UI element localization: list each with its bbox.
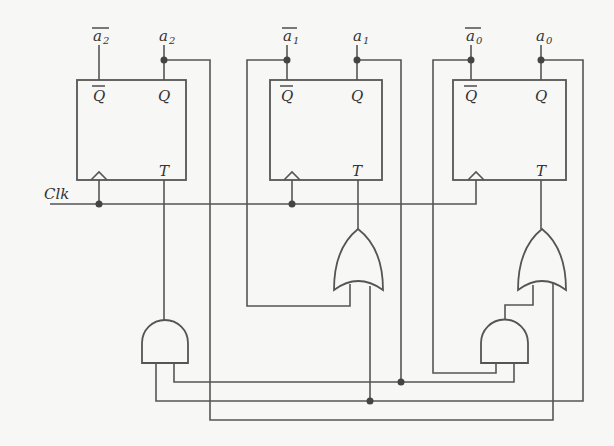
- and-gate-a0: [481, 320, 528, 364]
- pin-qbar: Q: [281, 87, 293, 105]
- output-label-a0: a: [536, 27, 545, 45]
- and-gate-a2: [142, 320, 188, 363]
- junction-dot: [367, 398, 374, 405]
- svg-text:2: 2: [168, 35, 175, 46]
- output-label-a0-bar: a: [466, 27, 475, 45]
- or-gate-a1: [334, 229, 383, 290]
- clock-label: Clk: [44, 185, 69, 203]
- svg-text:2: 2: [102, 35, 109, 46]
- junction-dot: [398, 379, 405, 386]
- junction-dot: [161, 57, 168, 64]
- junction-dot: [289, 201, 296, 208]
- junction-dot: [284, 57, 291, 64]
- output-label-a2: a: [159, 27, 168, 45]
- svg-text:1: 1: [363, 35, 369, 46]
- pin-q: Q: [158, 87, 170, 105]
- or-gate-a0: [518, 229, 566, 290]
- output-label-a2-bar: a: [93, 27, 102, 45]
- pin-q: Q: [351, 87, 363, 105]
- svg-text:0: 0: [476, 35, 483, 46]
- clock-triangle-icon: [284, 172, 300, 180]
- output-label-a1: a: [353, 27, 362, 45]
- clock-line: [50, 180, 476, 204]
- svg-text:1: 1: [293, 35, 299, 46]
- pin-q: Q: [535, 87, 547, 105]
- counter-circuit-diagram: a 2 a 2 a 1 a 1 a 0 a 0 Q Q T Q Q T Q Q …: [0, 0, 614, 446]
- pin-t: T: [159, 162, 170, 180]
- pin-qbar: Q: [93, 87, 105, 105]
- junction-dot: [468, 57, 475, 64]
- junction-dot: [96, 201, 103, 208]
- junction-dot: [538, 57, 545, 64]
- clock-triangle-icon: [468, 172, 484, 180]
- clock-triangle-icon: [91, 172, 107, 180]
- pin-t: T: [352, 162, 363, 180]
- pin-t: T: [536, 162, 547, 180]
- pin-qbar: Q: [465, 87, 477, 105]
- svg-text:0: 0: [546, 35, 553, 46]
- junction-dot: [354, 57, 361, 64]
- output-label-a1-bar: a: [283, 27, 292, 45]
